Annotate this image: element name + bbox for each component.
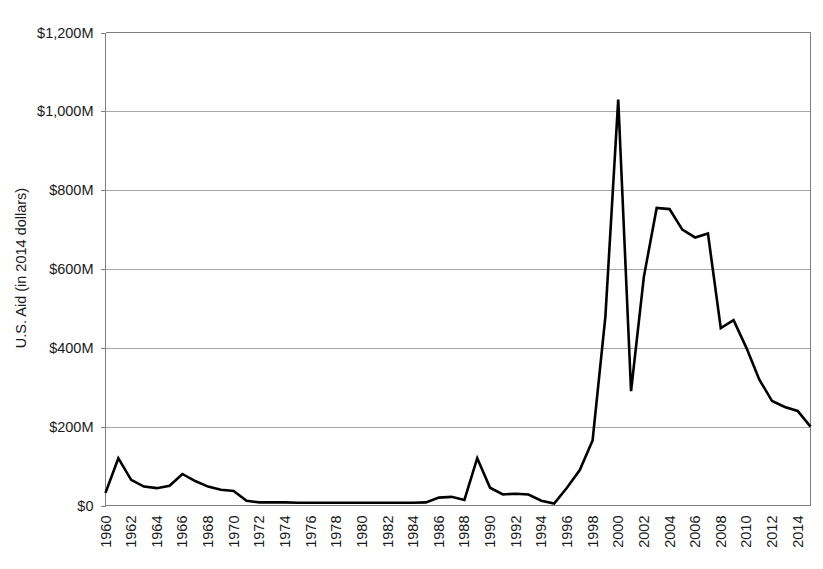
y-tick-label: $600M [49, 261, 93, 277]
x-tick-label: 2010 [738, 516, 754, 548]
y-axis-tick-marks [101, 34, 106, 507]
y-tick-label: $1,200M [37, 25, 93, 41]
data-series-group [106, 100, 811, 504]
x-tick-label: 2012 [764, 516, 780, 548]
y-tick-label: $400M [49, 340, 93, 356]
x-tick-label: 1988 [456, 516, 472, 548]
y-axis-title: U.S. Aid (in 2014 dollars) [13, 188, 29, 348]
x-tick-label: 1966 [174, 516, 190, 548]
x-axis-tick-labels: 1960196219641966196819701972197419761978… [98, 516, 806, 548]
y-tick-label: $800M [49, 182, 93, 198]
x-tick-label: 1992 [508, 516, 524, 548]
x-tick-label: 1994 [533, 516, 549, 548]
y-tick-label: $1,000M [37, 103, 93, 119]
x-tick-label: 2008 [713, 516, 729, 548]
x-tick-label: 1984 [405, 516, 421, 548]
x-tick-label: 1970 [226, 516, 242, 548]
x-tick-label: 1986 [431, 516, 447, 548]
x-tick-label: 1980 [354, 516, 370, 548]
x-tick-label: 2000 [610, 516, 626, 548]
x-tick-label: 1962 [123, 516, 139, 548]
x-tick-label: 1974 [277, 516, 293, 548]
y-tick-label: $0 [77, 498, 93, 514]
x-tick-label: 2006 [687, 516, 703, 548]
x-tick-label: 2004 [662, 516, 678, 548]
x-tick-label: 1960 [98, 516, 114, 548]
x-tick-label: 1972 [251, 516, 267, 548]
x-tick-label: 2002 [636, 516, 652, 548]
x-tick-label: 1996 [559, 516, 575, 548]
x-tick-label: 1978 [328, 516, 344, 548]
x-tick-label: 1964 [149, 516, 165, 548]
line-chart: $0$200M$400M$600M$800M$1,000M$1,200M 196… [0, 0, 823, 569]
y-axis-tick-labels: $0$200M$400M$600M$800M$1,000M$1,200M [37, 25, 93, 514]
x-tick-label: 1990 [482, 516, 498, 548]
x-tick-label: 1998 [585, 516, 601, 548]
x-tick-label: 1968 [200, 516, 216, 548]
x-tick-label: 1976 [303, 516, 319, 548]
y-tick-label: $200M [49, 419, 93, 435]
data-line-us-aid [106, 100, 811, 504]
chart-container: $0$200M$400M$600M$800M$1,000M$1,200M 196… [0, 0, 823, 569]
x-tick-label: 1982 [380, 516, 396, 548]
gridlines-group [106, 112, 811, 428]
x-tick-label: 2014 [790, 516, 806, 548]
